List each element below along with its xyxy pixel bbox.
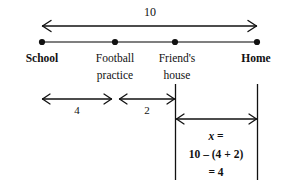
segment-arrow-2: [119, 94, 175, 104]
solution-line-2: 10 – (4 + 2): [189, 149, 243, 161]
point-label-football-practice-line1: Football: [96, 53, 134, 65]
solution-equals: =: [214, 130, 223, 142]
point-friends-house: [172, 39, 178, 45]
point-label-school: School: [26, 53, 59, 65]
segment-arrow-x: [176, 114, 257, 124]
solution-line-1: x =: [208, 131, 223, 143]
point-label-friends-house-line2: house: [164, 70, 191, 82]
segment-arrow-4: [42, 94, 112, 104]
point-school: [39, 39, 45, 45]
total-span-label: 10: [144, 6, 156, 18]
solution-line-3: = 4: [208, 167, 223, 179]
point-label-home: Home: [241, 53, 270, 65]
point-label-friends-house-line1: Friend's: [159, 53, 196, 65]
number-line: [39, 39, 260, 45]
diagram-canvas: [0, 0, 290, 187]
segment-label-2: 2: [144, 105, 150, 116]
point-label-football-practice-line2: practice: [97, 70, 133, 82]
distance-diagram: 10 School Football practice Friend's hou…: [0, 0, 290, 187]
point-football-practice: [112, 39, 118, 45]
total-span-arrow: [42, 21, 257, 32]
segment-label-4: 4: [74, 105, 80, 116]
point-home: [254, 39, 260, 45]
